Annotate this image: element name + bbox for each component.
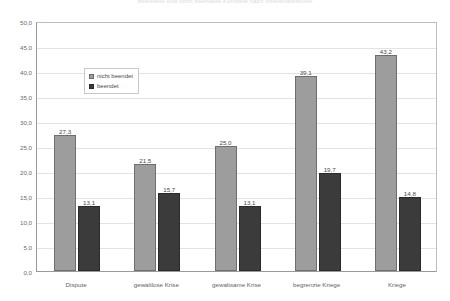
- bar-value-label: 21,5: [128, 157, 162, 164]
- legend-item-label: nicht beendet: [97, 73, 133, 80]
- bar[interactable]: [134, 164, 156, 272]
- x-axis-category-label: Dispute: [66, 281, 87, 288]
- bar-value-label: 27,3: [48, 128, 82, 135]
- bar-value-label: 19,7: [313, 166, 347, 173]
- y-axis-tick-label: 15,0: [0, 194, 32, 201]
- bar[interactable]: [215, 146, 237, 271]
- legend-item-label: beendet: [97, 83, 119, 90]
- y-axis-tick-label: 45,0: [0, 44, 32, 51]
- bar-chart: Beendete und nicht beendete Konflikte na…: [0, 0, 450, 301]
- y-axis-tick-label: 10,0: [0, 219, 32, 226]
- y-axis-tick-label: 40,0: [0, 69, 32, 76]
- bar[interactable]: [375, 55, 397, 271]
- y-axis-tick-label: 30,0: [0, 119, 32, 126]
- legend-swatch-icon: [89, 74, 94, 79]
- y-axis-tick-label: 5,0: [0, 244, 32, 251]
- legend-item[interactable]: nicht beendet: [89, 72, 133, 80]
- y-axis-tick-label: 25,0: [0, 144, 32, 151]
- bar[interactable]: [239, 206, 261, 272]
- x-axis-category-label: gewaltsame Krise: [212, 281, 261, 288]
- legend-item[interactable]: beendet: [89, 82, 133, 90]
- y-axis-tick-label: 0,0: [0, 269, 32, 276]
- x-axis-category-label: Kriege: [388, 281, 406, 288]
- y-axis-tick-label: 35,0: [0, 94, 32, 101]
- bar[interactable]: [319, 173, 341, 272]
- legend: nicht beendet beendet: [84, 68, 139, 94]
- x-axis-category-label: begrenzte Kriege: [293, 281, 340, 288]
- plot-area: 27,313,121,515,725,013,139,119,743,214,8: [36, 22, 437, 272]
- chart-title: Beendete und nicht beendete Konflikte na…: [0, 0, 450, 6]
- bar-value-label: 15,7: [152, 186, 186, 193]
- bar[interactable]: [295, 76, 317, 272]
- x-axis-category-label: gewaltlose Krise: [134, 281, 179, 288]
- legend-swatch-icon: [89, 84, 94, 89]
- y-axis-tick-label: 20,0: [0, 169, 32, 176]
- bar-value-label: 39,1: [289, 69, 323, 76]
- y-axis-tick-label: 50,0: [0, 19, 32, 26]
- bar-value-label: 13,1: [72, 199, 106, 206]
- bar-value-label: 25,0: [209, 139, 243, 146]
- bar-value-label: 43,2: [369, 48, 403, 55]
- bar[interactable]: [399, 197, 421, 271]
- bar-value-label: 14,8: [393, 190, 427, 197]
- bar-value-label: 13,1: [233, 199, 267, 206]
- bar[interactable]: [78, 206, 100, 272]
- bar[interactable]: [158, 193, 180, 272]
